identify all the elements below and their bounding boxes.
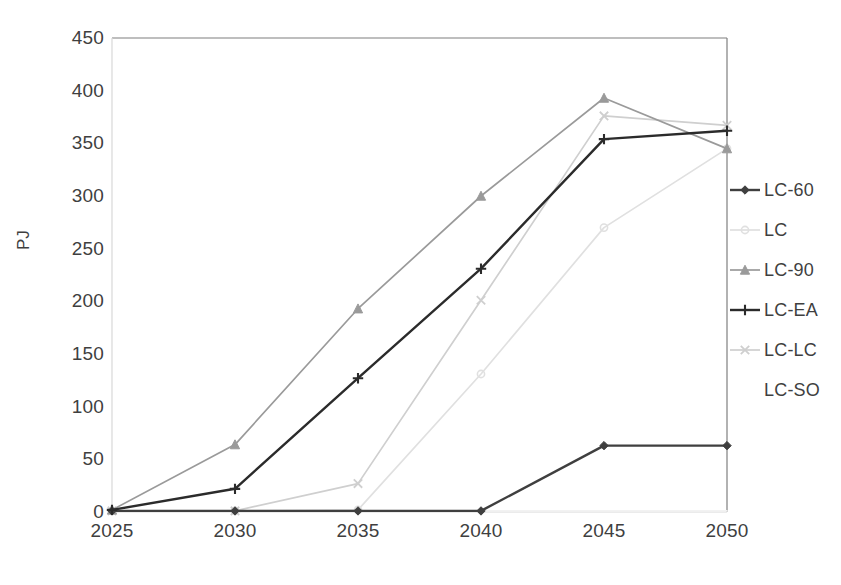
- legend-marker-icon: [728, 301, 762, 319]
- legend-marker-icon: [728, 341, 762, 359]
- legend-marker-icon: [728, 181, 762, 199]
- legend-label: LC-SO: [762, 380, 820, 401]
- data-point-marker: [741, 186, 749, 194]
- legend-marker-icon: [728, 261, 762, 279]
- legend-item-lc-90[interactable]: LC-90: [728, 250, 814, 290]
- legend-item-lc-ea[interactable]: LC-EA: [728, 290, 818, 330]
- legend-item-lc-60[interactable]: LC-60: [728, 170, 814, 210]
- legend-label: LC-EA: [762, 300, 818, 321]
- legend-item-lc-lc[interactable]: LC-LC: [728, 330, 817, 370]
- data-point-marker: [740, 305, 750, 315]
- legend-label: LC: [762, 220, 787, 241]
- legend-marker-icon: [728, 221, 762, 239]
- legend-item-lc[interactable]: LC: [728, 210, 787, 250]
- x-tick-label: 2025: [62, 521, 162, 540]
- legend-label: LC-LC: [762, 340, 817, 361]
- legend-label: LC-90: [762, 260, 814, 281]
- x-tick-label: 2040: [431, 521, 531, 540]
- legend-item-lc-so[interactable]: LC-SO: [728, 370, 820, 410]
- x-tick-label: 2045: [554, 521, 654, 540]
- legend-marker-icon: [728, 381, 762, 399]
- marker-diamond: [741, 186, 749, 194]
- marker-cross: [740, 305, 750, 315]
- chart-legend: LC-60LCLC-90LC-EALC-LCLC-SO: [728, 170, 841, 416]
- y-axis-title: PJ: [14, 230, 34, 250]
- legend-label: LC-60: [762, 180, 814, 201]
- x-axis-tick-labels: 202520302035204020452050: [0, 0, 841, 585]
- x-tick-label: 2030: [185, 521, 285, 540]
- line-chart: 050100150200250300350400450 202520302035…: [0, 0, 841, 585]
- x-tick-label: 2050: [677, 521, 777, 540]
- x-tick-label: 2035: [308, 521, 408, 540]
